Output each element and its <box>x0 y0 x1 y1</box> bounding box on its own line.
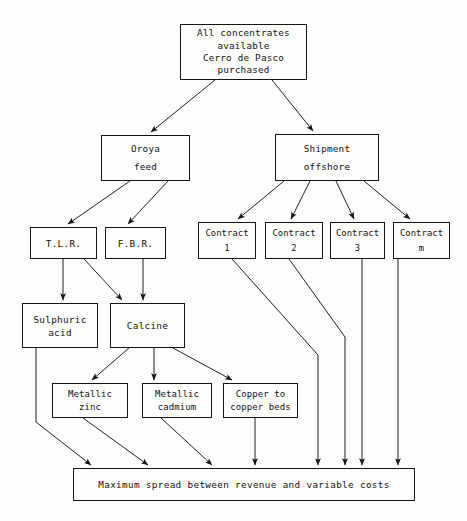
node-objective-label: Maximum spread between revenue and varia… <box>98 478 389 491</box>
node-sulphuric-acid[interactable]: Sulphuric acid <box>22 303 98 348</box>
node-sulphuric-acid-line-1: Sulphuric <box>33 313 86 326</box>
edge-shipment-offshore-to-contract-1 <box>238 181 284 219</box>
edge-shipment-offshore-to-contract-2 <box>291 181 310 219</box>
node-calcine-label: Calcine <box>127 319 168 332</box>
node-copper-beds-line-2: copper beds <box>230 401 291 414</box>
edge-tlr-to-calcine <box>84 259 122 300</box>
flow-diagram: All concentrates available Cerro de Pasc… <box>0 0 467 521</box>
node-fbr-label: F.B.R. <box>118 237 153 250</box>
node-fbr[interactable]: F.B.R. <box>105 227 166 259</box>
node-oroya-feed-line-1: Oroya <box>131 140 160 158</box>
node-metallic-cadmium-line-1: Metallic <box>155 388 199 401</box>
edge-oroya-feed-to-fbr <box>128 181 168 224</box>
node-source[interactable]: All concentrates available Cerro de Pasc… <box>180 24 307 80</box>
edge-calcine-to-metallic-zinc <box>92 348 129 380</box>
node-source-line-1: All concentrates <box>197 27 290 39</box>
node-contract-1-line-1: Contract <box>205 226 248 241</box>
node-contract-3-line-2: 3 <box>355 241 360 256</box>
node-contract-m-line-2: m <box>419 241 424 256</box>
node-contract-m[interactable]: Contract m <box>393 222 450 259</box>
node-contract-m-line-1: Contract <box>400 226 443 241</box>
node-oroya-feed[interactable]: Oroya feed <box>101 135 190 181</box>
node-tlr[interactable]: T.L.R. <box>30 227 97 259</box>
node-metallic-cadmium-line-2: cadmium <box>158 401 197 414</box>
node-metallic-zinc[interactable]: Metallic zinc <box>52 383 128 418</box>
node-calcine[interactable]: Calcine <box>110 303 185 348</box>
node-contract-3[interactable]: Contract 3 <box>330 222 385 259</box>
edge-calcine-to-copper-beds <box>173 348 232 380</box>
node-contract-2[interactable]: Contract 2 <box>265 222 323 259</box>
node-metallic-cadmium[interactable]: Metallic cadmium <box>142 383 212 418</box>
edge-shipment-offshore-to-contract-m <box>364 181 410 219</box>
node-contract-3-line-1: Contract <box>336 226 379 241</box>
node-shipment-offshore-line-1: Shipment <box>304 140 350 158</box>
node-copper-beds-line-1: Copper to <box>236 388 286 401</box>
node-metallic-zinc-line-2: zinc <box>79 401 101 414</box>
edge-metallic-cadmium-to-objective <box>161 418 212 465</box>
node-contract-1[interactable]: Contract 1 <box>198 222 256 259</box>
edge-source-to-oroya-feed <box>151 80 215 132</box>
node-source-line-4: purchased <box>217 64 269 76</box>
edge-source-to-shipment-offshore <box>272 80 313 131</box>
node-metallic-zinc-line-1: Metallic <box>68 388 112 401</box>
node-source-line-2: available <box>217 40 269 52</box>
edge-shipment-offshore-to-contract-3 <box>336 181 354 219</box>
edge-contract-2-to-objective <box>289 259 345 465</box>
node-oroya-feed-line-2: feed <box>134 158 157 176</box>
node-shipment-offshore[interactable]: Shipment offshore <box>275 134 379 181</box>
node-contract-1-line-2: 1 <box>224 241 229 256</box>
node-contract-2-line-2: 2 <box>291 241 296 256</box>
node-objective[interactable]: Maximum spread between revenue and varia… <box>73 468 415 501</box>
node-contract-2-line-1: Contract <box>272 226 315 241</box>
node-copper-beds[interactable]: Copper to copper beds <box>223 383 298 418</box>
node-source-line-3: Cerro de Pasco <box>203 52 284 64</box>
node-shipment-offshore-line-2: offshore <box>304 158 350 176</box>
edge-metallic-zinc-to-objective <box>83 418 148 465</box>
node-sulphuric-acid-line-2: acid <box>48 326 72 339</box>
node-tlr-label: T.L.R. <box>46 237 81 250</box>
edge-oroya-feed-to-tlr <box>68 181 130 224</box>
edge-contract-1-to-objective <box>232 259 318 465</box>
